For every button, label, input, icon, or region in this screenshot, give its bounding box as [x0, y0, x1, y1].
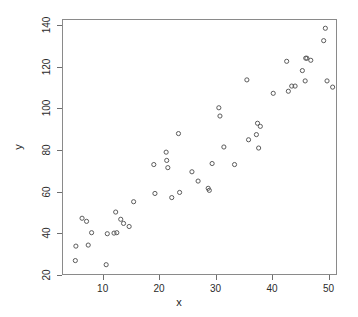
y-tick-label: 60: [41, 186, 52, 197]
data-point: [257, 146, 261, 150]
data-point: [246, 138, 250, 142]
data-point: [73, 258, 77, 262]
y-tick-mark: [57, 233, 62, 234]
data-point: [222, 145, 226, 149]
x-tick-label: 30: [210, 283, 221, 294]
data-point: [127, 224, 131, 228]
x-tick-label: 10: [97, 283, 108, 294]
data-point: [217, 106, 221, 110]
data-point: [325, 79, 329, 83]
data-point: [121, 221, 125, 225]
data-point: [258, 124, 262, 128]
plot-area: [62, 19, 337, 275]
y-tick-label: 120: [41, 59, 52, 76]
data-point: [245, 78, 249, 82]
y-tick-mark: [57, 67, 62, 68]
x-tick-mark: [159, 275, 160, 280]
data-point: [114, 210, 118, 214]
data-point: [104, 263, 108, 267]
y-tick-label: 80: [41, 145, 52, 156]
x-tick-mark: [216, 275, 217, 280]
data-point: [309, 58, 313, 62]
data-point: [178, 190, 182, 194]
y-tick-label: 20: [41, 269, 52, 280]
y-tick-label: 40: [41, 228, 52, 239]
y-tick-label: 100: [41, 100, 52, 117]
data-point: [105, 232, 109, 236]
data-point: [331, 85, 335, 89]
data-point: [210, 161, 214, 165]
scatter-plot-figure: 1020304050 20406080100120140 x y: [0, 0, 358, 317]
data-point: [86, 243, 90, 247]
data-point: [285, 59, 289, 63]
x-tick-label: 40: [266, 283, 277, 294]
x-tick-mark: [329, 275, 330, 280]
y-tick-mark: [57, 192, 62, 193]
x-tick-mark: [272, 275, 273, 280]
data-point: [80, 216, 84, 220]
data-point: [132, 200, 136, 204]
x-tick-label: 20: [154, 283, 165, 294]
data-point: [170, 196, 174, 200]
y-tick-mark: [57, 275, 62, 276]
data-point: [153, 191, 157, 195]
data-point: [90, 231, 94, 235]
data-point: [286, 89, 290, 93]
y-axis-label: y: [12, 144, 24, 150]
data-point: [165, 158, 169, 162]
data-point: [323, 26, 327, 30]
data-point: [322, 39, 326, 43]
data-point: [196, 179, 200, 183]
data-point: [303, 79, 307, 83]
x-axis-label: x: [0, 296, 358, 308]
data-point: [300, 69, 304, 73]
data-point: [84, 219, 88, 223]
data-point: [119, 217, 123, 221]
data-point: [74, 244, 78, 248]
x-tick-label: 50: [323, 283, 334, 294]
data-point: [115, 231, 119, 235]
data-point: [232, 162, 236, 166]
y-tick-mark: [57, 150, 62, 151]
data-point: [218, 114, 222, 118]
data-point: [271, 91, 275, 95]
data-points-layer: [63, 20, 336, 274]
x-tick-mark: [103, 275, 104, 280]
y-tick-label: 140: [41, 17, 52, 34]
y-tick-mark: [57, 25, 62, 26]
data-point: [164, 150, 168, 154]
data-point: [176, 131, 180, 135]
y-tick-mark: [57, 108, 62, 109]
data-point: [152, 162, 156, 166]
data-point: [166, 166, 170, 170]
data-point: [254, 133, 258, 137]
data-point: [190, 170, 194, 174]
